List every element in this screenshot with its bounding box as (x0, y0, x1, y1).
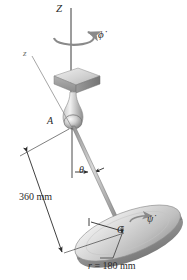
support-plate (54, 68, 100, 93)
mechanics-figure: Z ϕ̇ z A θ 360 mm G ψ̇ r = 180 mm (0, 0, 187, 280)
label-precession-rate: ϕ̇ (98, 29, 104, 40)
ball-and-socket-joint (63, 92, 83, 129)
radius-equals: = (92, 260, 103, 271)
label-disk-radius: r = 180 mm (88, 261, 136, 271)
label-vertical-axis: Z (56, 3, 62, 14)
label-mass-center: G (117, 225, 124, 235)
label-nutation-angle: θ (79, 165, 84, 175)
figure-drawing (0, 0, 187, 280)
label-spin-rate: ψ̇ (147, 214, 153, 224)
label-joint-A: A (47, 116, 53, 126)
label-body-axis: z (23, 49, 27, 58)
precession-arrow (54, 32, 94, 45)
label-arm-length: 360 mm (19, 192, 52, 202)
radius-value: 180 mm (103, 260, 136, 271)
